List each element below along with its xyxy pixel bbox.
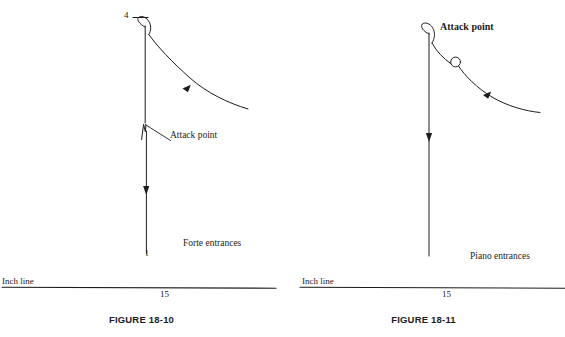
figure-page: 4 Attack point 1 Forte entrances Inch li…: [0, 0, 565, 337]
attack-point-leader-line: [145, 125, 170, 141]
entrance-type-label: Piano entrances: [470, 252, 530, 262]
rebound-curve: [149, 35, 248, 109]
inch-line-label: Inch line: [2, 277, 34, 286]
figure-18-11-panel: Attack point Piano entrances Inch line 1…: [282, 0, 565, 337]
inch-line-rule: [300, 287, 565, 288]
curve-arrowhead: [183, 85, 191, 92]
figure-18-10-drawing: [0, 0, 283, 300]
preparatory-loop: [422, 23, 435, 43]
bottom-number-label: 1: [145, 250, 149, 258]
figure-18-10-panel: 4 Attack point 1 Forte entrances Inch li…: [0, 0, 283, 337]
rebound-curve-lower: [459, 66, 541, 113]
inch-line-label: Inch line: [302, 277, 334, 286]
figure-caption: FIGURE 18-10: [0, 315, 283, 325]
inch-measure-label: 15: [442, 290, 451, 299]
inch-measure-label: 15: [160, 290, 169, 299]
secondary-loop-circle: [451, 57, 461, 67]
entrance-type-label: Forte entrances: [183, 239, 241, 249]
attack-point-label: Attack point: [440, 22, 494, 32]
inch-line-rule: [2, 287, 276, 288]
vertical-baton-line: [145, 26, 146, 254]
rebound-curve-upper: [432, 43, 451, 64]
down-arrowhead: [426, 133, 432, 142]
attack-point-notch: [142, 124, 146, 139]
attack-point-label: Attack point: [170, 131, 217, 141]
down-arrowhead: [143, 186, 149, 195]
top-number-label: 4: [124, 11, 129, 20]
figure-caption: FIGURE 18-11: [282, 315, 565, 325]
preparatory-loop: [138, 17, 151, 35]
